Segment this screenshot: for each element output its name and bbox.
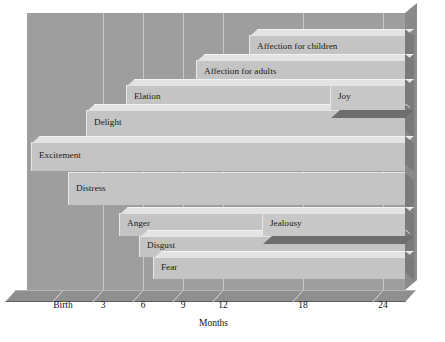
x-tick-label-3: 3 [101,300,106,310]
x-axis-title: Months [0,318,445,328]
bar-label: Distress [76,184,106,193]
bar-label: Disgust [147,242,175,251]
bar-top-face [263,207,414,214]
bar-top-face [250,29,414,36]
x-tick-label-24: 24 [378,300,388,310]
bar-label: Anger [127,220,150,229]
bar-label: Affection for children [257,42,337,51]
bar-label: Delight [94,119,122,128]
x-tick-label-12: 12 [218,300,228,310]
bar-excitement[interactable]: Excitement [31,142,405,171]
bar-top-face [154,251,414,258]
bar-label: Elation [134,92,161,101]
bar-shadow-face [331,110,414,118]
bar-label: Excitement [39,151,81,160]
chart-figure: Affection for children Affection for adu… [0,0,445,342]
bar-label: Joy [338,92,351,101]
bar-distress[interactable]: Distress [68,172,405,205]
x-axis-title-text: Months [199,318,228,328]
bar-label: Jealousy [270,220,302,229]
bar-label: Fear [161,263,177,272]
bar-label: Affection for adults [204,67,276,76]
x-tick-label-18: 18 [298,300,308,310]
bar-shadow-face [263,236,414,244]
x-tick-label-birth: Birth [53,300,73,310]
bar-top-face [197,54,414,61]
bar-top-face [331,79,414,86]
bar-fear[interactable]: Fear [153,257,405,279]
bar-joy[interactable]: Joy [330,85,405,110]
bar-top-face [32,136,414,143]
x-tick-label-9: 9 [181,300,186,310]
x-tick-label-6: 6 [141,300,146,310]
bar-jealousy[interactable]: Jealousy [262,213,405,236]
